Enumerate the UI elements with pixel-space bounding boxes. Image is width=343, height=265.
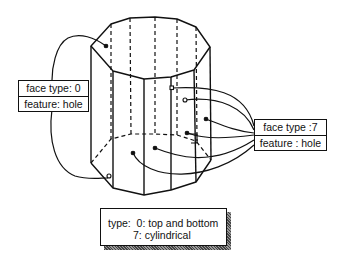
hidden-edge-5 <box>196 27 197 141</box>
hidden-bottom-edge <box>91 134 211 163</box>
legend-line-2: 7: cylindrical <box>108 229 226 241</box>
dot-cyl-5 <box>153 146 157 150</box>
leader-cyl-5 <box>155 140 254 158</box>
right-feature-label: feature : hole <box>255 135 326 150</box>
open-circle-cyl-2 <box>183 98 187 102</box>
left-label-box: face type: 0 feature: hole <box>18 80 89 112</box>
legend-box: type: 0: top and bottom 7: cylindrical <box>100 208 227 246</box>
open-square-cyl-1 <box>170 86 174 90</box>
leader-cyl-3 <box>206 119 254 133</box>
right-face-type-label: face type :7 <box>255 120 326 135</box>
leader-cyl-4 <box>188 133 254 138</box>
dot-top-face <box>104 44 108 48</box>
dot-cyl-4 <box>185 131 189 135</box>
top-face <box>91 17 210 79</box>
left-feature-label: feature: hole <box>19 96 88 111</box>
dot-cyl-6 <box>131 151 135 155</box>
edge-front-4 <box>194 70 196 182</box>
dot-cyl-3 <box>204 117 208 121</box>
hidden-edge-2 <box>130 18 131 134</box>
left-face-type-label: face type: 0 <box>19 81 88 96</box>
leader-top-face <box>52 36 106 80</box>
leader-cyl-1 <box>172 88 254 126</box>
legend-line-1: type: 0: top and bottom <box>108 217 226 229</box>
open-circle-bottom <box>107 174 111 178</box>
right-label-box: face type :7 feature : hole <box>254 119 327 151</box>
edge-right <box>210 47 211 160</box>
leader-bottom-face <box>51 109 108 179</box>
